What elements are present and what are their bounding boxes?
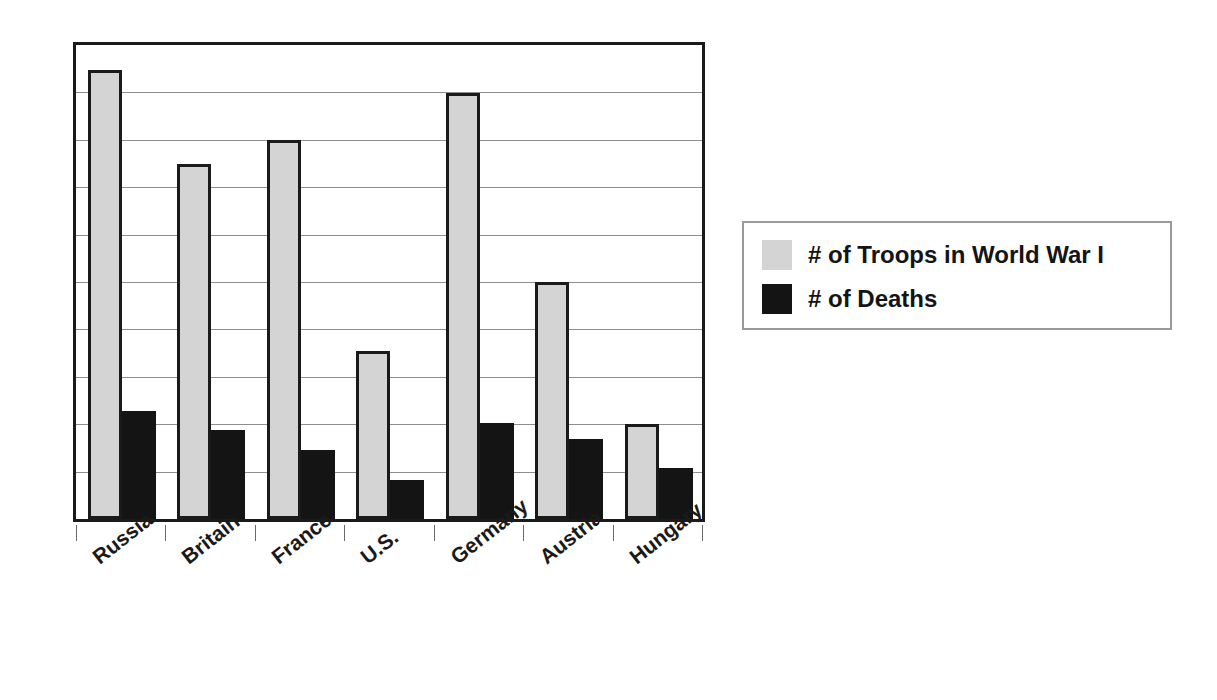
bar-britain-deaths [211, 430, 245, 519]
bar-germany-troops [446, 93, 480, 519]
legend-label-troops: # of Troops in World War I [808, 241, 1104, 269]
plot-inner [76, 45, 702, 519]
legend-item-troops: # of Troops in World War I [762, 240, 1104, 270]
x-axis-label-us: U.S. [356, 525, 403, 569]
plot-area [73, 42, 705, 522]
gridline [76, 282, 702, 283]
gridline [76, 92, 702, 93]
bar-us-deaths [390, 480, 424, 519]
bar-chart: RussiaBritainFranceU.S.GermanyAustriaHun… [0, 0, 1217, 700]
bar-austria-deaths [569, 439, 603, 519]
x-axis-tick [344, 525, 345, 541]
gridline [76, 140, 702, 141]
gridline [76, 235, 702, 236]
bar-russia-troops [88, 70, 122, 519]
x-axis-tick [165, 525, 166, 541]
x-axis-tick [255, 525, 256, 541]
bar-russia-deaths [122, 411, 156, 519]
gridline [76, 329, 702, 330]
bar-britain-troops [177, 164, 211, 520]
x-axis-tick [76, 525, 77, 541]
x-axis-tick [434, 525, 435, 541]
legend-label-deaths: # of Deaths [808, 285, 937, 313]
bar-hungary-troops [625, 424, 659, 519]
x-axis-tick [523, 525, 524, 541]
chart-legend: # of Troops in World War I # of Deaths [742, 221, 1172, 330]
light-gray-swatch-icon [762, 240, 792, 270]
bar-us-troops [356, 351, 390, 519]
gridline [76, 187, 702, 188]
x-axis-tick [613, 525, 614, 541]
bar-france-troops [267, 140, 301, 519]
legend-item-deaths: # of Deaths [762, 284, 937, 314]
black-swatch-icon [762, 284, 792, 314]
bar-austria-troops [535, 282, 569, 519]
x-axis-tick [702, 525, 703, 541]
